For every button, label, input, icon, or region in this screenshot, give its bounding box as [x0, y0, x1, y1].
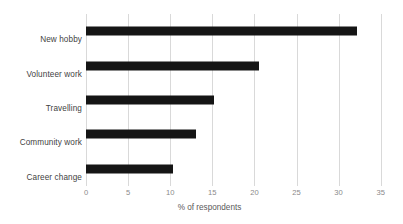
bar-new-hobby — [86, 27, 357, 36]
x-axis-tick-labels: 0 5 10 15 20 25 30 35 — [0, 188, 403, 200]
x-tick-25: 25 — [292, 188, 300, 197]
x-axis-title: % of respondents — [0, 203, 403, 212]
category-label-travelling: Travelling — [46, 104, 82, 113]
x-tick-10: 10 — [166, 188, 174, 197]
bars-layer — [86, 14, 381, 186]
bar-career-change — [86, 164, 173, 173]
bar-row — [86, 48, 381, 82]
x-tick-0: 0 — [84, 188, 88, 197]
category-label-community-work: Community work — [20, 138, 82, 147]
bar-volunteer-work — [86, 61, 259, 70]
x-axis-title-text: % of respondents — [178, 203, 242, 212]
bar-row — [86, 117, 381, 151]
x-tick-15: 15 — [208, 188, 216, 197]
bar-row — [86, 14, 381, 48]
bar-travelling — [86, 95, 214, 104]
category-label-volunteer-work: Volunteer work — [26, 69, 82, 78]
bar-chart: New hobby Volunteer work Travelling Comm… — [0, 0, 403, 224]
x-tick-30: 30 — [334, 188, 342, 197]
bar-row — [86, 83, 381, 117]
plot-area — [86, 14, 381, 186]
category-axis-labels: New hobby Volunteer work Travelling Comm… — [0, 14, 82, 186]
bar-row — [86, 152, 381, 186]
bar-community-work — [86, 130, 196, 139]
x-tick-5: 5 — [126, 188, 130, 197]
x-tick-20: 20 — [250, 188, 258, 197]
category-label-new-hobby: New hobby — [40, 35, 82, 44]
x-tick-35: 35 — [376, 188, 384, 197]
category-label-career-change: Career change — [27, 172, 82, 181]
